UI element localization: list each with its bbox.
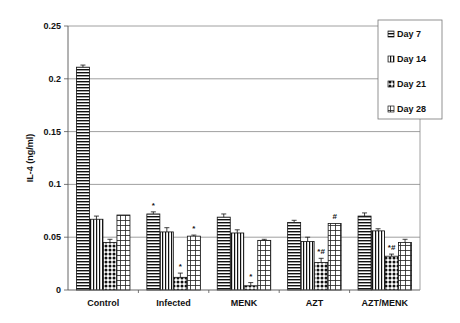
bar bbox=[315, 263, 328, 290]
bar bbox=[174, 277, 187, 290]
legend-label: Day 7 bbox=[397, 29, 421, 39]
bar bbox=[244, 286, 257, 290]
legend-swatch bbox=[388, 106, 394, 112]
y-tick-label: 0.05 bbox=[43, 232, 61, 242]
legend-label: Day 14 bbox=[397, 54, 426, 64]
y-tick-label: 0.15 bbox=[43, 127, 61, 137]
legend-label: Day 28 bbox=[397, 104, 426, 114]
bar-chart: *****##*# 00.050.10.150.20.25ControlInfe… bbox=[0, 0, 460, 323]
y-tick-label: 0.2 bbox=[48, 74, 61, 84]
significance-marker: * bbox=[152, 201, 156, 210]
bar bbox=[217, 217, 230, 290]
bar bbox=[328, 223, 341, 290]
significance-marker: *# bbox=[317, 247, 325, 256]
significance-marker: * bbox=[192, 224, 196, 233]
bar bbox=[258, 240, 271, 290]
bar bbox=[288, 222, 301, 290]
bar bbox=[147, 214, 160, 290]
bar bbox=[372, 231, 385, 290]
x-tick-label: AZT bbox=[306, 298, 324, 308]
gridlines bbox=[68, 26, 420, 237]
bar bbox=[103, 242, 116, 290]
legend-swatch bbox=[388, 56, 394, 62]
significance-marker: # bbox=[332, 212, 337, 221]
legend-swatch bbox=[388, 81, 394, 87]
x-tick-label: AZT/MENK bbox=[362, 298, 409, 308]
bar bbox=[90, 219, 103, 290]
bars: *****##*# bbox=[76, 65, 411, 290]
legend: Day 7Day 14Day 21Day 28 bbox=[378, 20, 442, 119]
bar bbox=[160, 232, 173, 290]
x-tick-label: Control bbox=[87, 298, 119, 308]
bar bbox=[385, 256, 398, 290]
legend-label: Day 21 bbox=[397, 79, 426, 89]
y-tick-label: 0.25 bbox=[43, 21, 61, 31]
y-axis-label: IL-4 (ng/ml) bbox=[25, 134, 35, 183]
x-tick-label: MENK bbox=[231, 298, 258, 308]
y-tick-label: 0 bbox=[56, 285, 61, 295]
bar bbox=[399, 242, 412, 290]
bar bbox=[187, 236, 200, 290]
x-tick-label: Infected bbox=[156, 298, 191, 308]
legend-swatch bbox=[388, 31, 394, 37]
bar bbox=[301, 241, 314, 290]
bar bbox=[231, 233, 244, 290]
bar bbox=[117, 215, 130, 290]
significance-marker: *# bbox=[388, 243, 396, 252]
y-tick-label: 0.1 bbox=[48, 179, 61, 189]
significance-marker: * bbox=[179, 262, 183, 271]
bar bbox=[358, 216, 371, 290]
significance-marker: * bbox=[249, 272, 253, 281]
bar bbox=[76, 67, 89, 290]
